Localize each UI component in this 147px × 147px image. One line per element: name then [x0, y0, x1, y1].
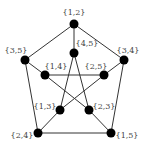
node-label-35: {3,5}	[5, 46, 28, 55]
node-25	[100, 71, 109, 80]
node-label-34: {3,4}	[117, 46, 140, 55]
edges-layer	[25, 24, 124, 133]
node-35	[21, 56, 30, 65]
node-14	[41, 71, 50, 80]
node-34	[120, 56, 129, 65]
edge-12-35	[25, 24, 74, 60]
node-24	[34, 129, 43, 138]
node-12	[70, 20, 79, 29]
node-label-25: {2,5}	[85, 62, 108, 71]
node-label-45: {4,5}	[76, 39, 99, 48]
edge-23-15	[89, 110, 111, 133]
node-45	[70, 49, 79, 58]
node-label-13: {1,3}	[34, 102, 57, 111]
node-label-23: {2,3}	[93, 102, 116, 111]
node-label-12: {1,2}	[63, 8, 86, 17]
node-label-15: {1,5}	[116, 131, 139, 140]
node-13	[56, 106, 65, 115]
edge-35-24	[25, 60, 38, 133]
node-label-24: {2,4}	[11, 131, 34, 140]
edge-34-15	[111, 60, 124, 133]
edge-13-24	[38, 110, 60, 133]
node-15	[107, 129, 116, 138]
node-label-14: {1,4}	[45, 62, 68, 71]
petersen-graph: {1,2}{3,5}{3,4}{4,5}{1,4}{2,5}{1,3}{2,3}…	[0, 0, 147, 147]
